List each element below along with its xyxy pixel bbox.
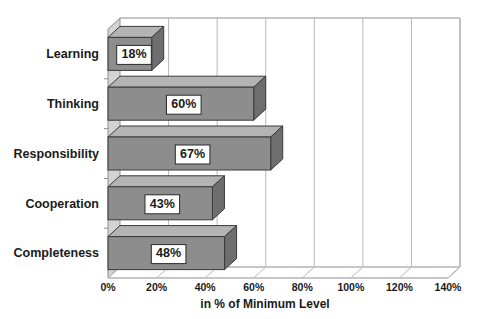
bar-top-face — [108, 126, 283, 137]
x-tick-label-40pct: 40% — [195, 281, 217, 293]
value-label-responsibility: 67% — [180, 147, 205, 161]
category-label-cooperation: Cooperation — [25, 197, 99, 211]
x-tick-label-140pct: 140% — [435, 281, 463, 293]
value-label-learning: 18% — [121, 47, 146, 61]
category-label-responsibility: Responsibility — [14, 147, 99, 161]
x-tick-label-20pct: 20% — [146, 281, 168, 293]
x-tick-label-80pct: 80% — [292, 281, 314, 293]
category-label-learning: Learning — [46, 47, 99, 61]
value-label-cooperation: 43% — [150, 197, 175, 211]
value-label-completeness: 48% — [156, 246, 181, 260]
chart-container: LearningThinkingResponsibilityCooperatio… — [0, 0, 480, 319]
category-label-thinking: Thinking — [47, 97, 99, 111]
category-label-completeness: Completeness — [14, 246, 99, 260]
bar-chart-svg: LearningThinkingResponsibilityCooperatio… — [0, 0, 480, 319]
x-tick-labels-group: 0%20%40%60%80%100%120%140% — [100, 281, 462, 293]
bar-top-face — [108, 76, 266, 87]
row-tick-marks — [104, 79, 108, 228]
category-labels-group: LearningThinkingResponsibilityCooperatio… — [14, 47, 99, 260]
x-tick-label-0pct: 0% — [100, 281, 116, 293]
bar-top-face — [108, 226, 237, 237]
x-tick-label-100pct: 100% — [337, 281, 365, 293]
bar-top-face — [108, 176, 224, 187]
x-tick-label-60pct: 60% — [243, 281, 265, 293]
x-axis-title: in % of Minimum Level — [200, 297, 329, 311]
x-tick-label-120pct: 120% — [386, 281, 414, 293]
value-label-thinking: 60% — [171, 97, 196, 111]
